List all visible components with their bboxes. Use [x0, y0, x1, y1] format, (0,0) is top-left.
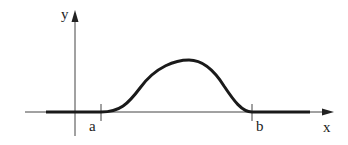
bound-b-label: b — [256, 118, 264, 134]
y-axis-arrow-icon — [72, 10, 79, 22]
bump-function-diagram: y x a b — [0, 0, 348, 145]
x-axis-arrow-icon — [322, 109, 334, 116]
bound-a-label: a — [89, 118, 96, 134]
y-axis-label: y — [61, 6, 69, 22]
function-curve — [46, 60, 310, 112]
x-axis-label: x — [323, 119, 331, 135]
y-axis — [72, 10, 79, 136]
